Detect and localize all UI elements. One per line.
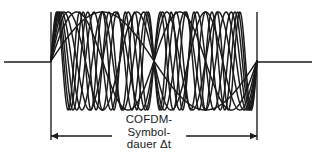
- cofdm-symbol-figure: COFDM- Symbol- dauer Δt: [0, 0, 315, 166]
- subcarrier-waveform-group: [51, 12, 257, 110]
- dimension-arrowhead-left: [51, 133, 58, 139]
- symbol-duration-label-line3: dauer Δt: [112, 138, 186, 151]
- dimension-arrowhead-right: [250, 133, 257, 139]
- symbol-duration-label: COFDM- Symbol- dauer Δt: [112, 113, 186, 151]
- symbol-duration-label-line2: Symbol-: [112, 126, 186, 139]
- symbol-duration-label-line1: COFDM-: [112, 113, 186, 126]
